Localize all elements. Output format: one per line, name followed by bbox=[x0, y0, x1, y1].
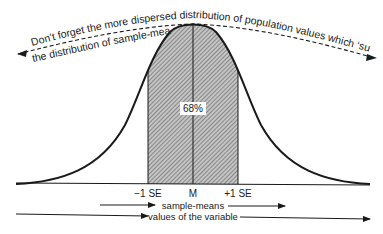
shaded-area-percent-label: 68% bbox=[183, 103, 203, 114]
plus-one-se-label: +1 SE bbox=[224, 188, 252, 199]
variable-values-arrow-left bbox=[16, 214, 148, 216]
left-arrow-icon bbox=[17, 50, 27, 57]
sample-means-label: sample-means bbox=[162, 200, 225, 211]
right-arrow-icon bbox=[366, 54, 377, 61]
variable-values-label: values of the variable bbox=[148, 211, 238, 222]
sampling-distribution-diagram: Don’t forget the more dispersed distribu… bbox=[0, 0, 383, 234]
minus-one-se-label: −1 SE bbox=[134, 188, 162, 199]
variable-values-arrow-right bbox=[240, 217, 370, 219]
mean-label: M bbox=[189, 188, 197, 199]
